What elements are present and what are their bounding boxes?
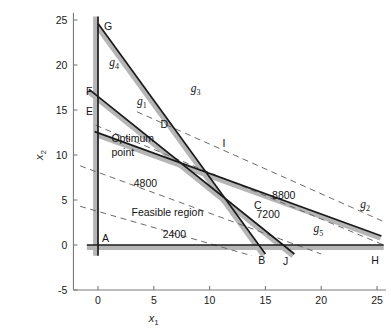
x-tick-label-0: 0 [95, 294, 101, 306]
annotation-7200: 7200 [256, 208, 280, 220]
annotation-2400: 2400 [163, 228, 187, 240]
y-tick-label-0: 0 [62, 239, 68, 251]
annotation-point: point [111, 146, 134, 158]
vertex-label-E: E [86, 105, 93, 117]
x-tick-label-10: 10 [204, 294, 216, 306]
x-tick-label-20: 20 [315, 294, 327, 306]
x-tick-label-5: 5 [151, 294, 157, 306]
linear-programming-plot: 0510152025-50510152025 x1x2ABCDEFGHIJOpt… [0, 0, 391, 330]
annotation-8800: 8800 [272, 189, 296, 201]
vertex-label-I: I [223, 137, 226, 149]
y-tick-label-10: 10 [56, 149, 68, 161]
vertex-label-J: J [283, 255, 288, 267]
annotation-4800: 4800 [134, 177, 158, 189]
chart-container: 0510152025-50510152025 x1x2ABCDEFGHIJOpt… [0, 0, 391, 330]
y-tick-label-5: 5 [62, 194, 68, 206]
y-tick-label-25: 25 [56, 14, 68, 26]
vertex-label-H: H [371, 254, 379, 266]
annotation-feasible-region: Feasible region [131, 206, 203, 218]
x-tick-label-15: 15 [260, 294, 272, 306]
vertex-label-G: G [104, 20, 112, 32]
vertex-label-B: B [258, 254, 265, 266]
x-tick-label-25: 25 [371, 294, 383, 306]
y-tick-label--5: -5 [58, 284, 67, 296]
vertex-label-A: A [102, 232, 109, 244]
vertex-label-D: D [160, 118, 168, 130]
vertex-label-F: F [86, 85, 92, 97]
annotation-optimum: Optimum [111, 132, 154, 144]
y-tick-label-15: 15 [56, 104, 68, 116]
y-tick-label-20: 20 [56, 59, 68, 71]
